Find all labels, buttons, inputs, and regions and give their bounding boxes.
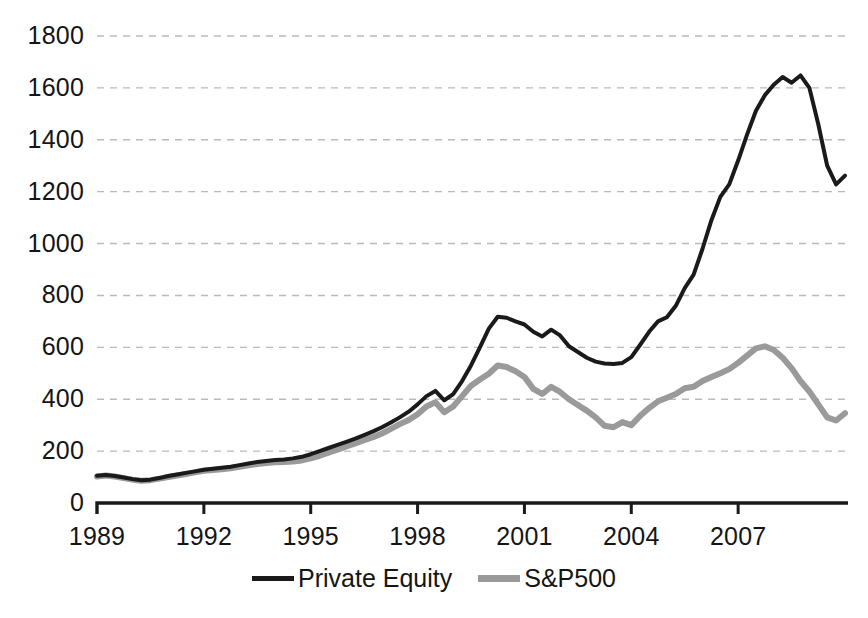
y-tick-label: 200 [6, 438, 84, 463]
legend-label: Private Equity [298, 566, 452, 591]
data-series-lines [97, 75, 845, 480]
legend-item: Private Equity [252, 566, 452, 591]
y-tick-label: 1600 [6, 75, 84, 100]
legend-color-swatch [478, 575, 520, 582]
legend-item: S&P500 [478, 566, 616, 591]
y-tick-label: 800 [6, 282, 84, 307]
legend-color-swatch [252, 576, 294, 581]
legend-label: S&P500 [524, 566, 616, 591]
y-tick-label: 400 [6, 386, 84, 411]
x-tick-label: 1992 [176, 524, 232, 549]
y-tick-label: 0 [6, 490, 84, 515]
x-tick-label: 1998 [389, 524, 445, 549]
chart-container: 020040060080010001200140016001800 198919… [0, 0, 868, 618]
x-tick-label: 1989 [69, 524, 125, 549]
x-tick-label: 1995 [282, 524, 338, 549]
x-tick-label: 2001 [496, 524, 552, 549]
y-tick-label: 600 [6, 334, 84, 359]
x-tick-label: 2007 [710, 524, 766, 549]
gridlines [97, 36, 850, 451]
y-tick-label: 1000 [6, 231, 84, 256]
series-line-private-equity [97, 75, 845, 480]
chart-legend: Private EquityS&P500 [0, 566, 868, 591]
y-tick-label: 1200 [6, 179, 84, 204]
x-axis-line [97, 503, 848, 514]
y-tick-label: 1800 [6, 23, 84, 48]
x-tick-label: 2004 [603, 524, 659, 549]
y-tick-label: 1400 [6, 127, 84, 152]
axis-baseline [97, 503, 848, 514]
